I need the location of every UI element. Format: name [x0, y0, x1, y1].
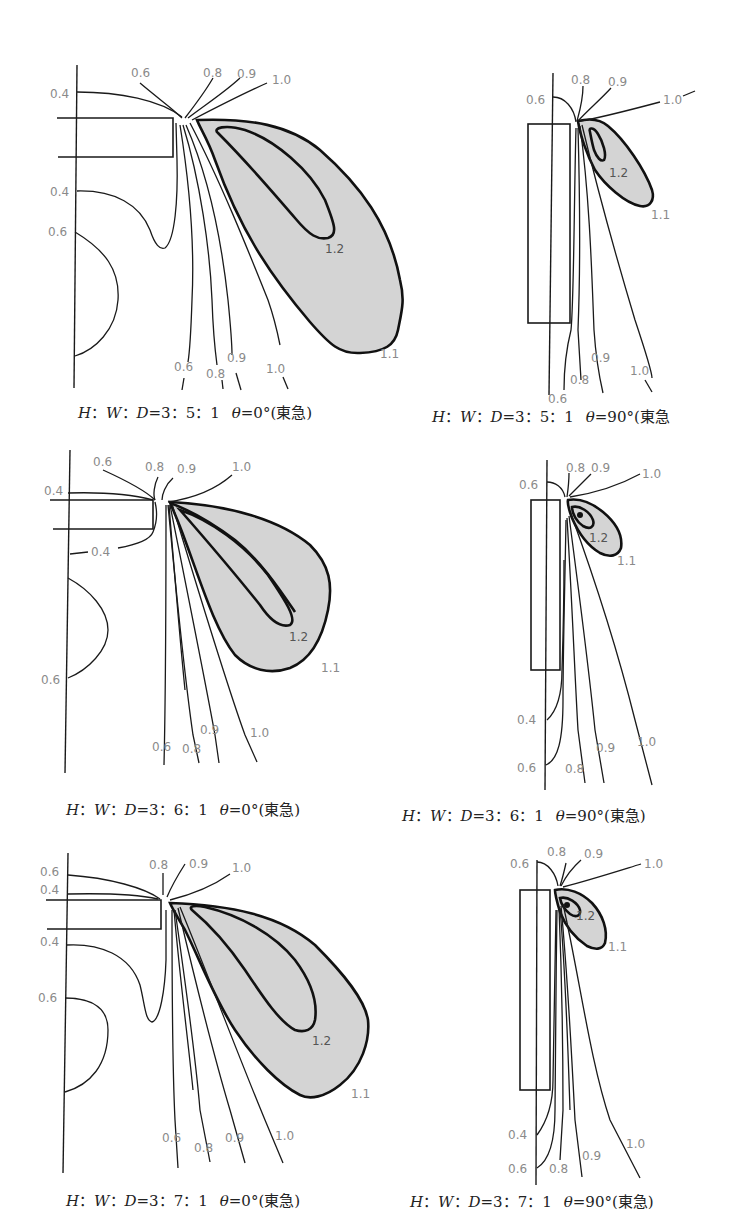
label-0-9: 0.9: [227, 351, 246, 365]
label-1-0: 1.0: [644, 857, 663, 871]
label-0-9: 0.9: [608, 75, 627, 89]
label-0-9: 0.9: [177, 462, 196, 476]
contour-0-4-bottom: [537, 910, 556, 1135]
label-0-4: 0.4: [508, 1128, 527, 1142]
label-1-0: 1.0: [232, 460, 251, 474]
label-0-6: 0.6: [519, 478, 538, 492]
caption: H：W：D=3：5：1θ=90°(東急: [431, 408, 670, 426]
label-0-9: 0.9: [189, 857, 208, 871]
tick-0-9: [236, 373, 241, 390]
contour-0-8-top: [154, 477, 158, 500]
contour-0-6-top: [547, 482, 565, 497]
label-0-9: 0.9: [596, 741, 615, 755]
label-0-6: 0.6: [152, 740, 171, 754]
contour-0-6-bottom: [546, 520, 566, 765]
contour-0-6-bottom: [164, 505, 166, 765]
label-1-2: 1.2: [609, 166, 628, 180]
label-1-1: 1.1: [380, 347, 399, 361]
contour-0-4-bottom: [547, 560, 564, 720]
label-1-0: 1.0: [275, 1129, 294, 1143]
contour-0-6-bottom: [180, 125, 193, 362]
label-1-1: 1.1: [651, 208, 670, 222]
contour-0-6-left: [75, 232, 118, 356]
contour-0-8-bottom: [567, 518, 585, 783]
caption: H：W：D=3：7：1θ=90°(東急): [409, 1193, 654, 1211]
contour-0-4-left: [70, 502, 157, 554]
axis-line: [65, 450, 70, 773]
contour-0-6-top: [537, 862, 558, 886]
contour-1-0-top: [563, 864, 641, 887]
label-0-8: 0.8: [194, 1141, 213, 1155]
tick-0-6: [182, 378, 184, 390]
contour-0-6-left: [68, 578, 108, 678]
label-0-6: 0.6: [41, 673, 60, 687]
contour-core: [564, 902, 570, 908]
label-0-9: 0.9: [225, 1131, 244, 1145]
label-0-4: 0.4: [91, 545, 110, 559]
contour-core: [577, 512, 583, 518]
building-outline: [528, 124, 570, 323]
label-1-0: 1.0: [250, 726, 269, 740]
contour-0-4-top: [68, 493, 153, 500]
axis-line: [549, 73, 553, 395]
label-1-0: 1.0: [272, 73, 291, 87]
label-1-0: 1.0: [663, 93, 682, 107]
label-0-6: 0.6: [517, 761, 536, 775]
contour-0-8-bottom: [578, 128, 581, 380]
caption: H：W：D=3：7：1θ=0°(東急): [65, 1192, 300, 1210]
label-0-6: 0.6: [38, 991, 57, 1005]
label-0-8: 0.8: [182, 742, 201, 756]
label-0-6: 0.6: [526, 93, 545, 107]
contour-1-0-top: [192, 83, 267, 120]
label-0-8: 0.8: [206, 367, 225, 381]
contour-0-6-top: [553, 97, 576, 122]
label-0-6: 0.6: [548, 392, 567, 406]
label-1-0: 1.0: [266, 362, 285, 376]
label-1-0: 1.0: [232, 861, 251, 875]
axis-line: [63, 853, 68, 1173]
label-0-8: 0.8: [149, 858, 168, 872]
axis-line: [74, 65, 77, 388]
shaded-region-1-1: [197, 120, 403, 353]
contour-0-9-top: [162, 478, 173, 500]
label-0-6: 0.6: [93, 455, 112, 469]
building-outline: [57, 118, 173, 157]
label-0-8: 0.8: [570, 373, 589, 387]
contour-0-4-left: [66, 910, 166, 1022]
label-0-6: 0.6: [131, 66, 150, 80]
contour-0-9-top: [569, 474, 591, 496]
label-0-9: 0.9: [200, 723, 219, 737]
panel-3-6-1-theta-90: 0.6 0.8 0.9 1.0 1.2 1.1 0.4 0.6 0.8 0.9 …: [401, 460, 661, 825]
label-0-9: 0.9: [237, 67, 256, 81]
label-0-8: 0.8: [203, 66, 222, 80]
building-outline: [50, 500, 153, 529]
label-0-4: 0.4: [40, 935, 59, 949]
label-1-0: 1.0: [630, 364, 649, 378]
label-0-8: 0.8: [571, 73, 590, 87]
tick-0-8: [222, 380, 223, 389]
label-0-6: 0.6: [510, 857, 529, 871]
contour-1-0-top: [570, 474, 640, 497]
contour-1-0-top: [170, 874, 230, 900]
contour-0-4-left: [77, 123, 177, 248]
label-0-8: 0.8: [566, 461, 585, 475]
contour-1-0-top: [580, 102, 660, 121]
contour-0-9-top: [188, 78, 240, 118]
label-0-8: 0.8: [145, 460, 164, 474]
label-0-4: 0.4: [50, 87, 69, 101]
label-1-0: 1.0: [642, 467, 661, 481]
building-outline: [46, 900, 161, 929]
label-1-1: 1.1: [321, 661, 340, 675]
label-1-2: 1.2: [289, 630, 308, 644]
contour-0-9-top: [167, 864, 185, 897]
caption: H：W：D=3：6：1θ=90°(東急): [401, 807, 646, 825]
label-0-8: 0.8: [565, 762, 584, 776]
label-0-9: 0.9: [591, 351, 610, 365]
label-0-6: 0.6: [48, 225, 67, 239]
label-0-4: 0.4: [44, 484, 63, 498]
label-1-1: 1.1: [617, 554, 636, 568]
tick-1-0: [645, 380, 652, 392]
label-0-6: 0.6: [40, 865, 59, 879]
contour-0-4-top: [68, 894, 158, 899]
label-1-2: 1.2: [576, 909, 595, 923]
